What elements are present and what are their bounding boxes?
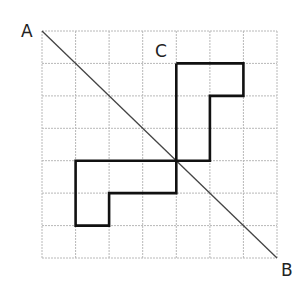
label-c: C xyxy=(155,41,167,61)
diagonal-line-ab xyxy=(42,31,277,258)
grid-diagram: A B C xyxy=(0,0,297,287)
label-a: A xyxy=(21,21,33,41)
label-b: B xyxy=(281,260,293,280)
